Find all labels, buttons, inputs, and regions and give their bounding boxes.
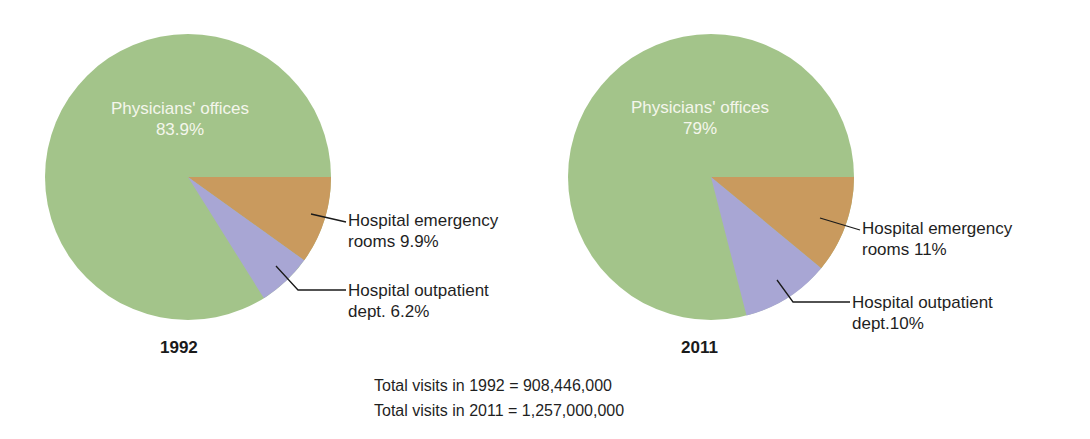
pie-2011	[568, 34, 860, 320]
emergency-percent-2011: rooms 11%	[862, 239, 1012, 260]
emergency-label-2011: Hospital emergency rooms 11%	[862, 218, 1012, 260]
outpatient-label-1992: Hospital outpatient dept. 6.2%	[348, 280, 489, 322]
outpatient-name-1992: Hospital outpatient	[348, 280, 489, 301]
year-label-2011: 2011	[681, 338, 718, 358]
year-label-1992: 1992	[160, 338, 198, 358]
physicians-percent-2011: 79%	[620, 118, 780, 139]
emergency-name-2011: Hospital emergency	[862, 218, 1012, 239]
outpatient-percent-2011: dept.10%	[852, 313, 993, 334]
total-visits-1992: Total visits in 1992 = 908,446,000	[374, 377, 612, 395]
outpatient-label-2011: Hospital outpatient dept.10%	[852, 292, 993, 334]
pie-1992	[45, 34, 346, 320]
physicians-name-2011: Physicians' offices	[620, 97, 780, 118]
physicians-label-1992: Physicians' offices 83.9%	[100, 98, 260, 140]
physicians-percent-1992: 83.9%	[100, 119, 260, 140]
total-visits-2011: Total visits in 2011 = 1,257,000,000	[374, 402, 624, 420]
emergency-name-1992: Hospital emergency	[348, 210, 498, 231]
physicians-label-2011: Physicians' offices 79%	[620, 97, 780, 139]
emergency-label-1992: Hospital emergency rooms 9.9%	[348, 210, 498, 252]
physicians-name-1992: Physicians' offices	[100, 98, 260, 119]
emergency-percent-1992: rooms 9.9%	[348, 231, 498, 252]
outpatient-percent-1992: dept. 6.2%	[348, 301, 489, 322]
outpatient-name-2011: Hospital outpatient	[852, 292, 993, 313]
